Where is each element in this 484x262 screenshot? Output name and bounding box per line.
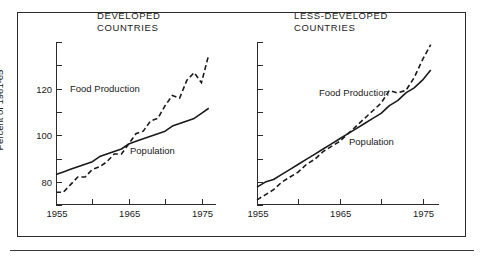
series-label-population-developed: Population	[130, 146, 175, 156]
curves-less-developed	[257, 42, 439, 205]
y-tick-70-right	[257, 205, 263, 206]
food-production-line-less-developed	[257, 45, 431, 200]
curves-developed	[56, 42, 216, 205]
y-tick-label-100: 100	[36, 131, 52, 141]
y-tick-label-80: 80	[41, 178, 52, 188]
panel-developed-countries: DEVELOPED COUNTRIES Percent of 1961-65 1…	[0, 0, 225, 225]
panel-title-developed: DEVELOPED COUNTRIES	[97, 10, 160, 33]
series-label-population-less-developed: Population	[349, 137, 394, 147]
series-label-food-production-developed: Food Production	[70, 84, 140, 94]
chart-figure: DEVELOPED COUNTRIES Percent of 1961-65 1…	[0, 0, 484, 262]
x-tick-label-1975-left: 1975	[192, 209, 213, 219]
panel-title-less-developed: LESS-DEVELOPED COUNTRIES	[294, 10, 388, 33]
panel-less-developed-countries: LESS-DEVELOPED COUNTRIES 1955 1965 1975	[222, 0, 449, 225]
plot-area-less-developed: 1955 1965 1975 Food Production Populatio…	[257, 42, 439, 205]
population-line-developed	[56, 108, 209, 174]
x-tick-label-1955-left: 1955	[46, 209, 67, 219]
x-tick-label-1965-left: 1965	[119, 209, 140, 219]
x-tick-label-1965-right: 1965	[330, 209, 351, 219]
food-production-line-developed	[56, 55, 209, 193]
plot-area-developed: 120 100 80 1955 1965 1975	[56, 42, 216, 205]
series-label-food-production-less-developed: Food Production	[319, 88, 389, 98]
x-tick-label-1955-right: 1955	[247, 209, 268, 219]
y-tick-70-left	[56, 205, 62, 206]
x-tick-label-1975-right: 1975	[413, 209, 434, 219]
figure-baseline-rule	[10, 250, 474, 251]
y-tick-label-120: 120	[36, 85, 52, 95]
y-axis-title: Percent of 1961-65	[0, 0, 5, 50]
